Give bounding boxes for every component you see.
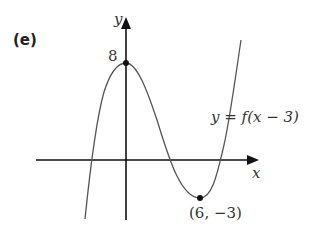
y-intercept-label: 8 [108,47,118,65]
y-axis [121,17,131,220]
minimum-point-label: (6, −3) [189,204,242,222]
y-axis-arrow-icon [121,17,131,29]
curve-equation-label: y = f(x − 3) [211,108,299,126]
graph-figure: (e) y x 8 (6, −3) y = f(x − 3) [0,0,321,245]
y-axis-label: y [114,10,122,28]
x-axis [36,155,259,165]
x-axis-label: x [252,164,260,182]
minimum-point-marker [197,195,203,201]
maximum-point-marker [123,60,129,66]
function-curve [85,40,241,219]
